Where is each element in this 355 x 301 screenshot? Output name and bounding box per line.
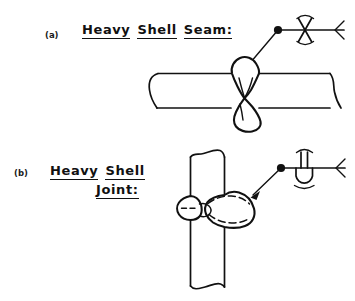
- weld-bead-a-upper: [232, 57, 259, 98]
- part-label-b: (b): [14, 168, 28, 178]
- plate-a-break-line-left: [149, 74, 158, 109]
- weld-bead-a-lower: [234, 98, 261, 132]
- part-caption-a: HeavyShellSeam:: [82, 22, 232, 39]
- figure-canvas: .stroke-hv { fill: none; stroke: #111111…: [0, 0, 355, 301]
- caption-b-word-3: Joint:: [96, 182, 139, 199]
- part-b-joint-drawing: [177, 150, 254, 289]
- caption-b-word-2: Shell: [105, 163, 144, 180]
- plate-a-break-line-right: [330, 74, 341, 109]
- part-label-a: (a): [45, 30, 59, 40]
- part-caption-b-line-2: Joint:: [96, 182, 139, 199]
- caption-a-word-1: Heavy: [82, 22, 130, 39]
- part-a-joint-drawing: [149, 57, 341, 132]
- caption-a-word-2: Shell: [137, 22, 176, 39]
- leader-line-b: [253, 168, 281, 195]
- convex-contour-arc-below-b: [295, 186, 315, 189]
- convex-contour-arc-above-b: [297, 150, 313, 153]
- welding-diagram-svg: .stroke-hv { fill: none; stroke: #111111…: [0, 0, 355, 301]
- plate-b-break-line-top: [191, 150, 225, 157]
- plate-b-break-line-bottom: [191, 284, 225, 289]
- caption-a-word-3: Seam:: [184, 22, 233, 39]
- u-groove-symbol-b: [296, 168, 313, 183]
- part-a-welding-symbol: [245, 15, 344, 71]
- part-b-welding-symbol: [251, 150, 346, 201]
- part-caption-b-line-1: HeavyShell: [50, 163, 145, 180]
- caption-b-word-1: Heavy: [50, 163, 98, 180]
